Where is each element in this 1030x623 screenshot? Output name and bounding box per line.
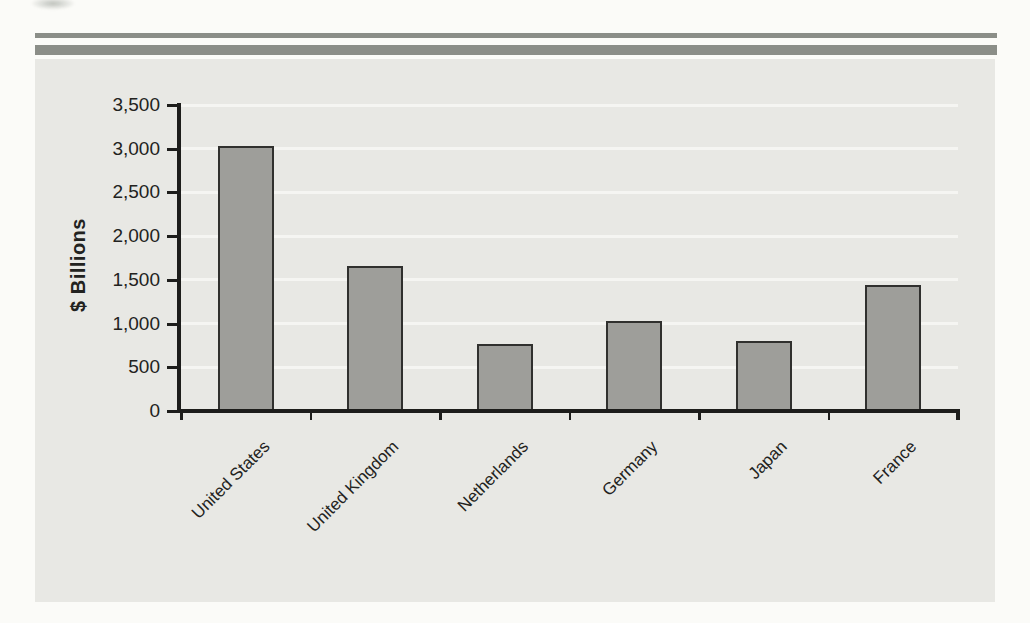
y-tick-label: 2,500: [112, 181, 160, 203]
gridline-3000: [181, 147, 958, 150]
top-divider-rule-thin: [35, 33, 997, 38]
x-tick-4: [698, 411, 701, 420]
y-tick-1,500: [167, 279, 177, 282]
gridline-2000: [181, 235, 958, 238]
bar-germany: [606, 321, 662, 413]
bar-netherlands: [477, 344, 533, 413]
gridline-1500: [181, 278, 958, 281]
gridline-3500: [181, 104, 958, 107]
scan-smudge-mark: [30, 0, 76, 10]
x-tick-6: [957, 411, 960, 420]
scanned-page: $ Billions 05001,0001,5002,0002,5003,000…: [0, 0, 1030, 623]
y-axis-title: $ Billions: [67, 218, 90, 312]
x-tick-5: [828, 411, 831, 420]
y-tick-3,000: [167, 148, 177, 151]
y-axis-line: [177, 103, 181, 413]
y-tick-label: 0: [149, 400, 160, 422]
x-tick-3: [569, 411, 572, 420]
bar-united-kingdom: [347, 266, 403, 413]
x-tick-2: [439, 411, 442, 420]
bar-france: [865, 285, 921, 413]
y-tick-label: 3,500: [112, 94, 160, 116]
bar-japan: [736, 341, 792, 413]
y-tick-label: 3,000: [112, 138, 160, 160]
x-tick-0: [180, 411, 183, 420]
y-tick-2,500: [167, 191, 177, 194]
top-divider-rule-thick: [35, 45, 997, 55]
gridline-500: [181, 366, 958, 369]
y-tick-label: 500: [128, 356, 160, 378]
gridline-2500: [181, 191, 958, 194]
y-tick-label: 1,500: [112, 269, 160, 291]
y-tick-2,000: [167, 235, 177, 238]
y-tick-0: [167, 410, 177, 413]
bar-united-states: [218, 146, 274, 413]
y-tick-1,000: [167, 323, 177, 326]
y-tick-500: [167, 366, 177, 369]
gridline-1000: [181, 322, 958, 325]
y-tick-3,500: [167, 104, 177, 107]
x-tick-1: [310, 411, 313, 420]
y-tick-label: 1,000: [112, 313, 160, 335]
y-tick-label: 2,000: [112, 225, 160, 247]
